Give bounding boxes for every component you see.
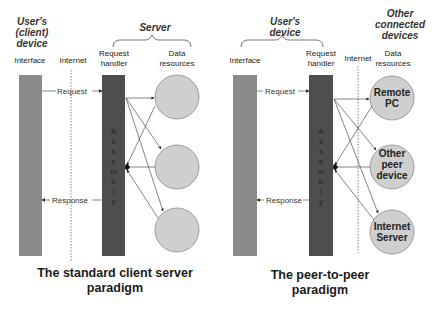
svg-text:PC: PC [385, 98, 399, 109]
left-request-label: Request [57, 87, 88, 96]
left-assembly-node [125, 164, 129, 170]
left-paradigm-title: The standard client server paradigm [20, 266, 210, 296]
right-resource-internet-server: Internet Server [370, 210, 414, 254]
left-resource-1 [155, 75, 199, 119]
svg-text:Server: Server [376, 232, 407, 243]
svg-text:device: device [376, 170, 408, 181]
right-paradigm-title: The peer-to-peer paradigm [255, 268, 385, 298]
svg-text:y: y [112, 197, 116, 206]
svg-text:b: b [319, 177, 324, 186]
svg-text:y: y [319, 197, 323, 206]
left-response-label: Response [52, 196, 89, 205]
svg-text:A: A [111, 127, 117, 136]
svg-text:s: s [112, 147, 116, 156]
right-interface-bar [233, 75, 257, 256]
left-resource-2 [155, 145, 199, 189]
right-assembly-node [333, 164, 337, 170]
right-response-label: Response [266, 196, 303, 205]
title-line: The peer-to-peer [255, 268, 385, 283]
left-server-brace [113, 35, 191, 47]
svg-text:b: b [111, 177, 116, 186]
svg-text:Other: Other [379, 148, 406, 159]
right-resource-other-peer: Other peer device [370, 145, 414, 189]
svg-text:Internet: Internet [374, 221, 411, 232]
svg-text:s: s [319, 147, 323, 156]
diagram-canvas: A s s e m b l y Request Response A s s e… [0, 0, 440, 309]
svg-text:A: A [318, 127, 324, 136]
svg-text:m: m [110, 167, 117, 176]
title-line: paradigm [20, 281, 210, 296]
title-line: The standard client server [20, 266, 210, 281]
svg-text:e: e [111, 157, 116, 166]
right-user-brace [241, 35, 323, 47]
right-request-label: Request [265, 87, 296, 96]
title-line: paradigm [255, 283, 385, 298]
svg-text:m: m [318, 167, 325, 176]
svg-text:l: l [320, 187, 322, 196]
svg-text:l: l [113, 187, 115, 196]
svg-text:peer: peer [381, 159, 402, 170]
left-interface-bar [19, 75, 42, 256]
svg-text:e: e [319, 157, 324, 166]
svg-text:s: s [319, 137, 323, 146]
left-resource-3 [155, 208, 199, 252]
right-resource-remote-pc: Remote PC [370, 76, 414, 120]
svg-text:s: s [112, 137, 116, 146]
svg-text:Remote: Remote [374, 87, 411, 98]
